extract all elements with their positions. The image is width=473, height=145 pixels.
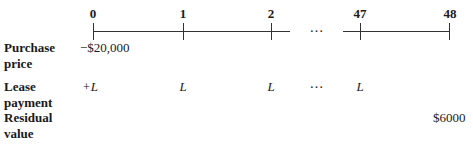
- tick-47: [360, 23, 361, 40]
- tick-0: [93, 23, 94, 40]
- row-label-line2: price: [4, 56, 55, 72]
- row-label-line2: value: [4, 126, 52, 142]
- lease-payment-ellipsis: …: [310, 76, 325, 92]
- row-label-lease-payment: Lease payment: [4, 79, 52, 111]
- timeline-ellipsis: …: [310, 20, 325, 36]
- row-label-line1: Purchase: [4, 40, 55, 56]
- lease-payment-1: L: [179, 79, 186, 95]
- row-label-line2: payment: [4, 95, 52, 111]
- period-label-1: 1: [180, 6, 187, 22]
- tick-2: [271, 23, 272, 40]
- lease-payment-2: L: [267, 79, 274, 95]
- lease-payment-0: +L: [82, 79, 98, 95]
- row-label-purchase-price: Purchase price: [4, 40, 55, 72]
- row-label-residual-value: Residual value: [4, 110, 52, 142]
- row-label-line1: Lease: [4, 79, 52, 95]
- row-label-line1: Residual: [4, 110, 52, 126]
- purchase-price-value: −$20,000: [80, 40, 130, 56]
- tick-1: [183, 23, 184, 40]
- timeline-line-left: [93, 31, 290, 32]
- tick-48: [449, 23, 450, 40]
- period-label-0: 0: [90, 6, 97, 22]
- lease-payment-47: L: [356, 79, 363, 95]
- period-label-47: 47: [354, 6, 367, 22]
- period-label-2: 2: [268, 6, 275, 22]
- period-label-48: 48: [444, 6, 457, 22]
- residual-value-48: $6000: [433, 110, 466, 126]
